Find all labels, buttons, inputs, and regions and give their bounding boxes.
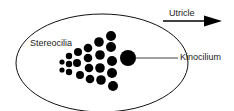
utricle-label: Utricle — [169, 9, 195, 18]
hair-cell-outline — [16, 14, 188, 111]
kinocilium-circle — [120, 50, 136, 66]
kinocilium-label: Kinocilium — [180, 53, 221, 62]
stereocilia-label: Stereocilia — [30, 39, 72, 48]
